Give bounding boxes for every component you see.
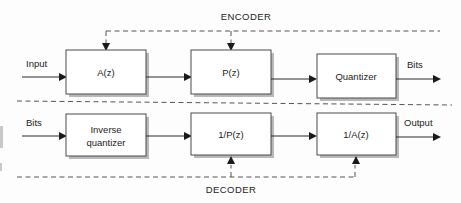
link-inv-p-z-to-inv-a-z-arrow (309, 132, 317, 140)
output-signal-label: Output (404, 117, 433, 128)
link-p-z-to-quantizer-arrow (309, 75, 317, 83)
input-signal-label: Input (26, 58, 47, 69)
block-inverse-quantizer-label-line2: quantizer (86, 137, 125, 148)
bits-output-arrow-head (433, 75, 441, 83)
block-quantizer[interactable]: Quantizer (317, 54, 399, 101)
encoder-decoder-divider (17, 101, 452, 105)
block-inv-a-z[interactable]: 1/A(z) (317, 113, 399, 158)
block-inverse-quantizer[interactable]: Inverse quantizer (66, 114, 149, 159)
output-arrow-head (433, 133, 441, 141)
decoder-section-label: DECODER (206, 184, 256, 195)
block-inv-a-z-label: 1/A(z) (343, 129, 368, 140)
block-inv-p-z-label: 1/P(z) (218, 129, 243, 140)
block-a-z[interactable]: A(z) (66, 50, 149, 97)
block-inverse-quantizer-label-line1: Inverse (90, 124, 121, 135)
encoder-section-label: ENCODER (221, 11, 271, 22)
bits-output-label: Bits (407, 59, 423, 70)
encoder-feedback-bus (106, 31, 440, 44)
block-a-z-label: A(z) (97, 67, 114, 78)
block-p-z[interactable]: P(z) (191, 50, 274, 97)
block-inv-p-z[interactable]: 1/P(z) (191, 113, 274, 158)
block-p-z-label: P(z) (222, 67, 239, 78)
scan-artifacts (0, 126, 3, 171)
bits-input-label: Bits (26, 117, 42, 128)
block-quantizer-label: Quantizer (335, 71, 376, 82)
diagram-canvas: ENCODER Input A(z) P(z) (0, 0, 461, 203)
block-diagram: ENCODER Input A(z) P(z) (0, 0, 461, 203)
decoder-feedback-bus (17, 165, 355, 177)
